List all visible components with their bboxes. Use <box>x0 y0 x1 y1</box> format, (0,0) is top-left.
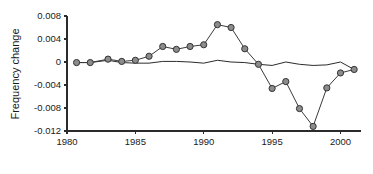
data-point-marker <box>173 46 179 52</box>
data-point-marker <box>73 59 79 65</box>
axis-tick-marks <box>64 16 340 134</box>
data-point-marker <box>255 61 261 67</box>
axis-spines <box>67 16 361 131</box>
data-point-marker <box>337 70 343 76</box>
y-tick-label: -0.012 <box>34 125 61 136</box>
x-tick-label: 1990 <box>193 136 214 147</box>
data-point-marker <box>214 22 220 28</box>
data-point-marker <box>201 42 207 48</box>
data-point-marker <box>242 46 248 52</box>
x-tick-label: 2000 <box>330 136 351 147</box>
y-tick-label: 0.004 <box>37 33 61 44</box>
y-axis-tick-labels: 0.0080.0040-0.004-0.008-0.012 <box>34 10 61 136</box>
x-tick-label: 1985 <box>125 136 146 147</box>
data-point-marker <box>296 105 302 111</box>
data-point-marker <box>146 53 152 59</box>
data-point-marker <box>87 59 93 65</box>
y-tick-label: 0.008 <box>37 10 61 21</box>
y-axis-title-group: Frequency change <box>9 28 21 119</box>
data-point-marker <box>119 58 125 64</box>
x-tick-label: 1995 <box>262 136 283 147</box>
y-tick-label: -0.004 <box>34 79 61 90</box>
y-tick-label: 0 <box>56 56 61 67</box>
marked-series-line <box>77 25 355 127</box>
data-point-marker <box>187 43 193 49</box>
chart-figure: Frequency change 0.0080.0040-0.004-0.008… <box>0 0 373 174</box>
x-axis-tick-labels: 19801985199019952000 <box>56 136 351 147</box>
data-point-marker <box>310 123 316 129</box>
y-tick-label: -0.008 <box>34 102 61 113</box>
data-point-marker <box>351 66 357 72</box>
data-point-marker <box>228 24 234 30</box>
y-axis-title: Frequency change <box>9 28 21 119</box>
frequency-change-line-chart: Frequency change 0.0080.0040-0.004-0.008… <box>0 0 373 174</box>
marked-series-points <box>73 22 357 130</box>
data-point-marker <box>160 43 166 49</box>
data-point-marker <box>283 78 289 84</box>
data-point-marker <box>132 57 138 63</box>
data-point-marker <box>324 85 330 91</box>
x-tick-label: 1980 <box>56 136 77 147</box>
data-point-marker <box>269 85 275 91</box>
data-point-marker <box>105 56 111 62</box>
